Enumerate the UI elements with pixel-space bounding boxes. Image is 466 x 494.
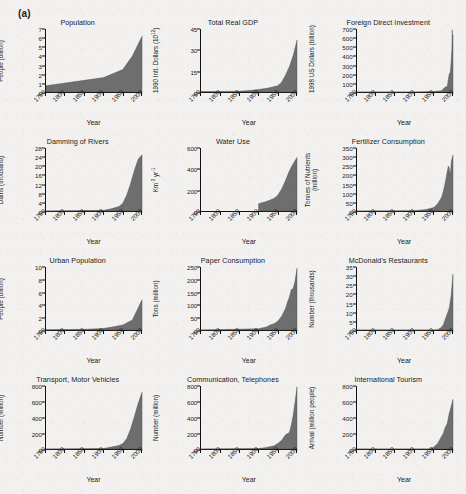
chart-cell: McDonald's RestaurantsNumber (thousands)… [311,256,466,375]
y-tick-label: 200 [187,276,197,283]
y-tick-label: 800 [342,383,352,390]
y-tick-label: 20 [346,291,353,298]
plot-area [45,267,142,331]
y-tick-label: 10 [35,264,42,271]
plot-area [356,148,453,212]
chart-4: Damming of RiversDams (thousand)04812162… [0,137,155,256]
y-tick-label: 800 [32,383,42,390]
y-tick-label: 400 [342,53,352,60]
y-tick-label: 8 [39,190,42,197]
area-series [357,30,453,92]
y-tick-label: 45 [190,26,197,33]
y-tick-label: 5 [349,318,352,325]
y-tick-label: 50 [346,199,353,206]
y-tick-labels: 0246810 [0,267,42,331]
plot-area [200,29,297,93]
y-tick-label: 400 [187,166,197,173]
x-axis-title: Year [45,476,142,483]
y-tick-label: 5 [39,44,42,51]
y-tick-label: 400 [187,415,197,422]
x-axis-title: Year [356,119,453,126]
chart-title: McDonald's Restaurants [311,256,466,265]
y-tick-label: 2 [39,71,42,78]
x-axis-title: Year [45,238,142,245]
x-axis-title: Year [200,476,297,483]
y-tick-label: 500 [342,44,352,51]
area-series [201,387,297,449]
x-axis-title: Year [200,119,297,126]
chart-cell: PopulationPeople (billion)01234567175018… [0,18,155,137]
chart-3: Foreign Direct Investment1998 US Dollars… [311,18,466,137]
chart-2: Total Real GDP1990 Intl. Dollars (1012)0… [155,18,310,137]
y-tick-label: 8 [39,276,42,283]
area-series [46,36,142,92]
x-axis-title: Year [200,357,297,364]
chart-9: McDonald's RestaurantsNumber (thousands)… [311,256,466,375]
chart-title: Damming of Rivers [0,137,155,146]
grid-spacer [311,0,466,18]
chart-8: Paper ConsumptionTons (million)050100150… [155,256,310,375]
y-tick-label: 600 [342,399,352,406]
y-tick-label: 400 [32,415,42,422]
y-tick-labels: 0100200300400500600700 [311,29,353,93]
y-tick-label: 2 [39,315,42,322]
y-tick-label: 250 [187,264,197,271]
chart-12: International TourismArrival (million pe… [311,375,466,494]
y-tick-label: 600 [342,35,352,42]
area-series [201,40,297,92]
x-axis-title: Year [45,119,142,126]
area-series [46,155,142,211]
y-tick-label: 35 [346,264,353,271]
x-axis-title: Year [200,238,297,245]
x-axis-title: Year [45,357,142,364]
y-tick-label: 20 [35,163,42,170]
y-tick-label: 100 [342,80,352,87]
y-tick-label: 24 [35,154,42,161]
y-tick-label: 4 [39,302,42,309]
plot-area [200,267,297,331]
y-tick-label: 300 [342,62,352,69]
plot-area [200,148,297,212]
plot-area [200,386,297,450]
y-tick-label: 15 [190,68,197,75]
plot-area [45,386,142,450]
y-tick-labels: 050100150200250 [155,267,197,331]
y-tick-label: 10 [346,309,353,316]
chart-cell: Transport, Motor VehiclesNumber (million… [0,375,155,494]
y-tick-label: 200 [342,71,352,78]
y-tick-label: 50 [190,315,197,322]
y-tick-label: 300 [342,154,352,161]
y-tick-label: 25 [346,282,353,289]
y-tick-labels: 01234567 [0,29,42,93]
y-tick-label: 6 [39,35,42,42]
y-tick-label: 15 [346,300,353,307]
y-tick-label: 200 [187,187,197,194]
x-axis-title: Year [356,357,453,364]
y-tick-labels: 050100150200250300350 [311,148,353,212]
y-tick-label: 200 [342,431,352,438]
y-tick-label: 700 [342,26,352,33]
y-tick-labels: 0153045 [155,29,197,93]
y-tick-label: 4 [39,199,42,206]
y-tick-label: 350 [342,145,352,152]
area-series [201,268,297,330]
area-series [259,157,297,211]
chart-cell: Water UseKm-3 yr-10200400600175018001850… [155,137,310,256]
y-tick-label: 400 [342,415,352,422]
y-tick-label: 12 [35,181,42,188]
chart-10: Transport, Motor VehiclesNumber (million… [0,375,155,494]
area-series [357,155,453,211]
plot-area [356,267,453,331]
chart-title: Foreign Direct Investment [311,18,466,27]
chart-title: Communication, Telephones [155,375,310,384]
y-tick-label: 250 [342,163,352,170]
y-tick-label: 1 [39,80,42,87]
chart-title: Total Real GDP [155,18,310,27]
chart-11: Communication, TelephonesNumber (million… [155,375,310,494]
y-tick-label: 200 [342,172,352,179]
y-tick-labels: 05101520253035 [311,267,353,331]
y-tick-label: 150 [187,289,197,296]
y-tick-label: 30 [346,273,353,280]
y-tick-label: 600 [187,399,197,406]
y-tick-labels: 0200400600800 [0,386,42,450]
